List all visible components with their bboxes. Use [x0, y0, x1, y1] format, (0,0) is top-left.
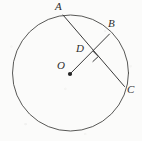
- radius-segment-OB: [70, 34, 110, 74]
- point-label-O: O: [57, 60, 65, 71]
- chord-segment-AC: [63, 15, 125, 87]
- center-point-O: [68, 72, 72, 76]
- geometry-figure-canvas: A B C D O: [0, 0, 142, 141]
- point-label-D: D: [76, 43, 84, 54]
- point-label-C: C: [127, 84, 134, 95]
- point-label-A: A: [55, 1, 62, 12]
- point-label-B: B: [108, 18, 115, 29]
- geometry-drawing: [0, 0, 142, 141]
